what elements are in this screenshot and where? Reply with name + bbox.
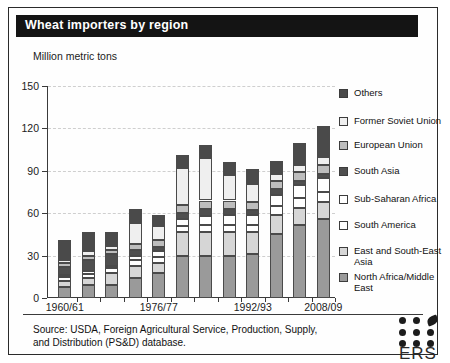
logo-dot [413,317,420,324]
bar-segment [58,267,71,275]
bar-segment [293,198,306,208]
bar-segment [176,232,189,256]
bar-segment [199,232,212,256]
bar-segment [317,157,330,165]
bar-segment [199,225,212,232]
bar-segment [82,278,95,285]
bar-segment [317,178,330,192]
bar-segment [317,192,330,202]
bar-segment [105,273,118,286]
legend-label: European Union [354,140,423,151]
logo-dot [413,329,420,336]
bar-segment [246,202,259,210]
bar-segment [246,254,259,298]
bar-segment [176,213,189,219]
bar-segment [129,266,142,279]
bar-segment [223,215,236,225]
legend-item[interactable]: Former Soviet Union [339,116,441,127]
bar-segment [317,174,330,178]
bar-segment [105,254,118,265]
x-axis-tick [124,298,125,302]
bar-stack[interactable] [270,161,283,298]
bar-stack[interactable] [105,232,118,298]
legend-label: South America [354,220,416,231]
bar-segment [199,256,212,298]
bar-segment [152,215,165,226]
page-title: Wheat importers by region [25,18,188,32]
bar-segment [270,189,283,195]
y-axis-tick [42,86,47,87]
bar-segment [293,208,306,225]
legend-item[interactable]: Sub-Saharan Africa [339,194,436,205]
legend-label: South Asia [354,166,399,177]
bar-segment [293,165,306,172]
ers-logo: ERS [399,316,447,363]
bar-segment [246,169,259,183]
bar-segment [270,206,283,214]
bar-stack[interactable] [176,155,189,298]
x-axis-tick-label: 1992/93 [234,301,272,313]
bar-stack[interactable] [152,215,165,298]
bar-segment [152,240,165,247]
bar-segment [223,225,236,232]
bar-segment [199,145,212,158]
legend-swatch [339,167,348,176]
bar-segment [176,256,189,298]
bar-segment [176,219,189,226]
bar-segment [82,256,95,260]
bar-segment [58,240,71,260]
ers-wordmark: ERS [399,344,443,363]
bar-stack[interactable] [58,240,71,298]
logo-dot [427,329,434,336]
bar-segment [246,210,259,214]
bar-segment [223,256,236,298]
bar-stack[interactable] [293,143,306,298]
footer-divider [23,314,423,315]
y-axis-tick [42,128,47,129]
legend-swatch [339,273,348,282]
bar-segment [246,215,259,225]
bar-stack[interactable] [223,162,236,298]
bar-segment [223,162,236,175]
bar-segment [152,273,165,298]
legend-swatch [339,247,348,256]
legend-item[interactable]: North Africa/Middle East [339,272,445,293]
y-axis-tick-label: 90 [27,165,39,177]
bar-stack[interactable] [129,209,142,298]
bar-segment [129,278,142,298]
bar-segment [293,225,306,298]
bar-segment [82,271,95,274]
legend-swatch [339,141,348,150]
bar-stack[interactable] [199,145,212,298]
bar-segment [176,226,189,232]
logo-dot [399,329,406,336]
bar-stack[interactable] [246,169,259,298]
bar-segment [152,247,165,251]
legend-item[interactable]: Others [339,88,383,99]
bar-segment [199,209,212,216]
x-axis-tick [288,298,289,302]
legend-item[interactable]: South Asia [339,166,399,177]
y-axis-tick-label: 30 [27,250,39,262]
bar-stack[interactable] [82,232,95,298]
bar-segment [317,165,330,173]
bar-segment [105,246,118,250]
bar-segment [246,225,259,232]
bar-segment [129,256,142,260]
y-axis-tick-label: 150 [21,80,39,92]
bar-segment [129,244,142,250]
bar-segment [82,260,95,271]
legend-item[interactable]: European Union [339,140,423,151]
y-axis-tick [42,298,47,299]
bar-segment [246,184,259,202]
bar-segment [105,232,118,246]
y-axis-tick-label: 120 [21,122,39,134]
legend-item[interactable]: South America [339,220,416,231]
bar-segment [176,155,189,168]
bar-segment [223,232,236,256]
bar-segment [129,209,142,223]
y-axis-line [47,86,48,298]
bar-stack[interactable] [317,126,330,298]
legend-item[interactable]: East and South-East Asia [339,246,445,267]
y-axis-tick-label: 0 [33,292,39,304]
